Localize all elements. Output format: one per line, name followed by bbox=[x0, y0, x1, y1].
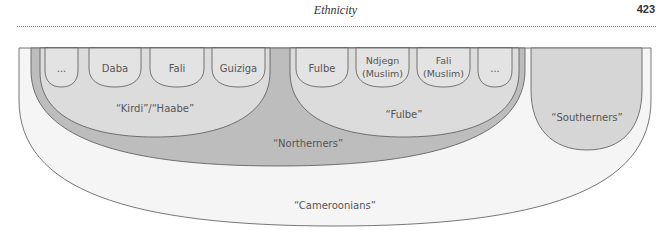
svg-text:Daba: Daba bbox=[102, 63, 128, 74]
fulbe-group-label: “Fulbe” bbox=[386, 109, 423, 120]
svg-text:...: ... bbox=[490, 63, 500, 74]
kirdi-haabe-label: “Kirdi”/“Haabe” bbox=[116, 103, 194, 114]
svg-text:Guiziga: Guiziga bbox=[220, 63, 257, 74]
svg-text:Ndjegn: Ndjegn bbox=[366, 55, 400, 66]
fulbe-member-ellipsis: ... bbox=[478, 48, 512, 87]
kirdi-member-daba: Daba bbox=[89, 48, 141, 87]
fulbe-member-fali-muslim: Fali (Muslim) bbox=[417, 48, 470, 87]
kirdi-member-ellipsis: ... bbox=[45, 48, 78, 87]
fulbe-member-fulbe: Fulbe bbox=[296, 48, 348, 87]
cameroonians-label: “Cameroonians” bbox=[294, 200, 376, 211]
northerners-label: “Northerners” bbox=[273, 138, 343, 149]
southerners-region bbox=[531, 48, 642, 150]
svg-text:(Muslim): (Muslim) bbox=[362, 68, 403, 79]
svg-text:...: ... bbox=[57, 63, 67, 74]
kirdi-member-guiziga: Guiziga bbox=[212, 48, 265, 87]
svg-text:Fali: Fali bbox=[436, 55, 452, 66]
svg-text:(Muslim): (Muslim) bbox=[423, 68, 464, 79]
svg-text:Fali: Fali bbox=[169, 63, 186, 74]
svg-text:Fulbe: Fulbe bbox=[309, 63, 336, 74]
southerners-label: “Southerners” bbox=[551, 112, 622, 123]
fulbe-member-ndjegn-muslim: Ndjegn (Muslim) bbox=[356, 48, 409, 87]
ethnicity-nested-diagram: ... Daba Fali Guiziga Fulbe Ndjegn (Musl… bbox=[0, 0, 671, 238]
kirdi-member-fali: Fali bbox=[150, 48, 204, 87]
